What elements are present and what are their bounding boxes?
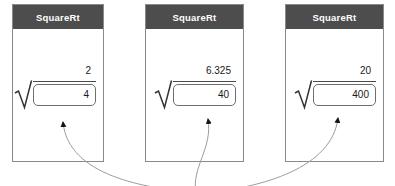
squarert-window-2: SquareRt 6.325 40 bbox=[145, 4, 244, 162]
squarert-window-3: SquareRt 20 400 bbox=[285, 4, 384, 162]
radical-sign-icon bbox=[14, 80, 33, 110]
radicand-input[interactable]: 4 bbox=[33, 84, 96, 106]
window-title: SquareRt bbox=[173, 12, 217, 23]
sqrt-expression: 20 400 bbox=[294, 65, 376, 110]
radicand-input[interactable]: 40 bbox=[173, 84, 236, 106]
vinculum: 400 bbox=[313, 81, 376, 106]
sqrt-expression: 2 4 bbox=[14, 65, 96, 110]
sqrt-result: 20 bbox=[313, 65, 376, 77]
window-title: SquareRt bbox=[36, 12, 80, 23]
figure-canvas: SquareRt 2 4 SquareRt 6.325 bbox=[0, 0, 395, 186]
vinculum: 40 bbox=[173, 81, 236, 106]
window-titlebar[interactable]: SquareRt bbox=[286, 5, 383, 29]
window-titlebar[interactable]: SquareRt bbox=[146, 5, 243, 29]
window-title: SquareRt bbox=[313, 12, 357, 23]
radical-sign-icon bbox=[294, 80, 313, 110]
radical-sign-icon bbox=[154, 80, 173, 110]
sqrt-result: 6.325 bbox=[173, 65, 236, 77]
window-titlebar[interactable]: SquareRt bbox=[13, 5, 103, 29]
sqrt-result: 2 bbox=[33, 65, 96, 77]
vinculum: 4 bbox=[33, 81, 96, 106]
sqrt-expression: 6.325 40 bbox=[154, 65, 236, 110]
squarert-window-1: SquareRt 2 4 bbox=[12, 4, 104, 162]
radicand-input[interactable]: 400 bbox=[313, 84, 376, 106]
